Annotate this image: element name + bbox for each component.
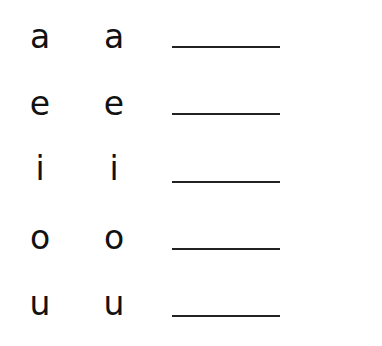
letter-left: i bbox=[25, 152, 55, 185]
answer-blank-line[interactable] bbox=[172, 113, 280, 115]
answer-blank-line[interactable] bbox=[172, 315, 280, 317]
letter-right: a bbox=[99, 20, 129, 53]
worksheet-row-e: e e bbox=[0, 85, 382, 145]
letter-left: a bbox=[25, 20, 55, 53]
letter-right: e bbox=[99, 87, 129, 120]
worksheet-row-u: u u bbox=[0, 286, 382, 346]
worksheet-row-o: o o bbox=[0, 219, 382, 279]
answer-blank-line[interactable] bbox=[172, 46, 280, 48]
worksheet-row-a: a a bbox=[0, 18, 382, 78]
letter-right: o bbox=[99, 221, 129, 254]
answer-blank-line[interactable] bbox=[172, 248, 280, 250]
letter-right: u bbox=[99, 287, 129, 320]
letter-left: e bbox=[25, 87, 55, 120]
worksheet-row-i: i i bbox=[0, 152, 382, 212]
answer-blank-line[interactable] bbox=[172, 181, 280, 183]
letter-right: i bbox=[99, 152, 129, 185]
letter-left: u bbox=[25, 287, 55, 320]
letter-left: o bbox=[25, 221, 55, 254]
